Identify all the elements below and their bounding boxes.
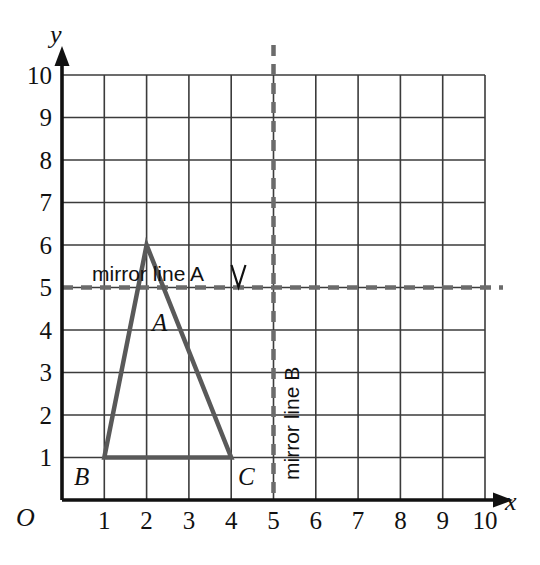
- y-tick-4: 4: [6, 318, 52, 343]
- x-tick-10: 10: [465, 508, 505, 533]
- y-tick-3: 3: [6, 360, 52, 385]
- y-tick-2: 2: [6, 403, 52, 428]
- vertex-label-b: B: [74, 464, 89, 489]
- y-tick-6: 6: [6, 233, 52, 258]
- y-tick-7: 7: [6, 190, 52, 215]
- y-tick-8: 8: [6, 148, 52, 173]
- figure-canvas: y x O 10 9 8 7 6 5 4 3 2 1 1 2 3 4 5 6 7…: [0, 0, 540, 565]
- origin-label: O: [16, 505, 35, 531]
- y-axis-arrow-icon: [55, 46, 70, 66]
- y-tick-1: 1: [6, 445, 52, 470]
- mirror-line-a-label: mirror line A: [92, 263, 204, 284]
- vertex-label-a: A: [152, 310, 167, 335]
- x-tick-8: 8: [380, 508, 420, 533]
- y-tick-9: 9: [6, 105, 52, 130]
- mirror-line-b-label: mirror line B: [281, 367, 302, 480]
- x-tick-1: 1: [84, 508, 124, 533]
- x-axis-label: x: [505, 489, 517, 515]
- x-tick-9: 9: [423, 508, 463, 533]
- y-axis-label: y: [50, 22, 62, 48]
- x-tick-4: 4: [211, 508, 251, 533]
- x-tick-6: 6: [296, 508, 336, 533]
- mirror-a-caret-icon: [232, 265, 246, 287]
- x-tick-5: 5: [254, 508, 294, 533]
- vertex-label-c: C: [238, 464, 255, 489]
- y-tick-5: 5: [6, 275, 52, 300]
- y-tick-10: 10: [6, 63, 52, 88]
- x-tick-3: 3: [169, 508, 209, 533]
- x-tick-7: 7: [338, 508, 378, 533]
- x-tick-2: 2: [127, 508, 167, 533]
